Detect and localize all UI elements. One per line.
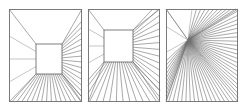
panel-1-inner-box <box>36 44 62 74</box>
panel-2 <box>88 9 160 102</box>
panel-1 <box>9 9 82 102</box>
perspective-figure <box>0 0 248 111</box>
panel-3 <box>166 9 238 102</box>
perspective-panels-svg <box>0 0 248 111</box>
panel-2-inner-box <box>104 30 133 62</box>
